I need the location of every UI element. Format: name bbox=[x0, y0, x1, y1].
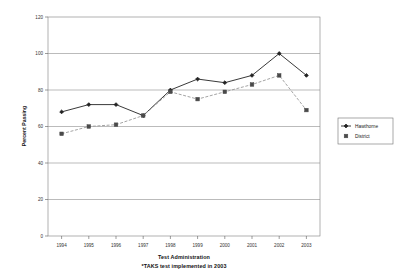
line-chart: 020406080100120 199419951996199719981999… bbox=[0, 0, 404, 280]
data-point bbox=[169, 90, 173, 94]
y-tick-label: 60 bbox=[38, 124, 44, 129]
data-point bbox=[223, 90, 227, 94]
y-tick-label: 80 bbox=[38, 88, 44, 93]
x-axis-title-text: Test Administration bbox=[158, 254, 210, 260]
x-tick-label: 1999 bbox=[192, 243, 203, 248]
y-tick-label: 100 bbox=[35, 51, 43, 56]
x-tick-label: 2002 bbox=[274, 243, 285, 248]
x-tick-label: 2000 bbox=[220, 243, 231, 248]
x-tick-label: 1998 bbox=[165, 243, 176, 248]
data-point bbox=[114, 123, 118, 127]
data-point bbox=[87, 125, 91, 129]
x-tick-label: 1994 bbox=[56, 243, 67, 248]
x-tick-label: 1996 bbox=[111, 243, 122, 248]
legend[interactable]: HawthorneDistrict bbox=[338, 118, 393, 144]
data-point bbox=[141, 114, 145, 118]
data-point bbox=[277, 74, 281, 78]
x-axis-note-text: *TAKS test implemented in 2003 bbox=[142, 263, 227, 269]
x-tick-label: 2001 bbox=[247, 243, 258, 248]
x-tick-label: 2003 bbox=[301, 243, 312, 248]
y-axis-title-text: Percent Passing bbox=[21, 106, 27, 146]
y-tick-label: 20 bbox=[38, 197, 44, 202]
legend-label: District bbox=[355, 134, 370, 139]
y-tick-label: 40 bbox=[38, 161, 44, 166]
legend-box bbox=[338, 118, 393, 144]
plot-area bbox=[45, 17, 320, 239]
y-tick-label: 120 bbox=[35, 15, 43, 20]
x-tick-label: 1995 bbox=[84, 243, 95, 248]
data-point bbox=[250, 83, 254, 87]
chart-container: 020406080100120 199419951996199719981999… bbox=[0, 0, 404, 280]
legend-marker-square bbox=[344, 134, 348, 138]
y-tick-label: 0 bbox=[40, 234, 43, 239]
data-point bbox=[60, 132, 64, 136]
data-point bbox=[305, 108, 309, 112]
data-point bbox=[196, 97, 200, 101]
y-axis-title: Percent Passing bbox=[21, 106, 27, 146]
legend-label: Hawthorne bbox=[355, 124, 379, 129]
x-tick-label: 1997 bbox=[138, 243, 149, 248]
